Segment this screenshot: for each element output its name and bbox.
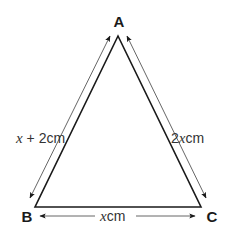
side-label-bc: xcm — [99, 208, 125, 224]
arrow-side-ac — [127, 36, 206, 198]
vertex-label-c: C — [207, 208, 218, 225]
triangle-diagram: A B C x + 2cm 2xcm xcm — [0, 0, 225, 236]
arrow-side-ab — [30, 36, 110, 198]
vertex-label-a: A — [114, 13, 125, 30]
diagram-canvas: A B C x + 2cm 2xcm xcm — [0, 0, 225, 236]
side-label-ac: 2xcm — [171, 130, 204, 146]
side-label-ab: x + 2cm — [15, 130, 65, 146]
vertex-label-b: B — [22, 208, 33, 225]
triangle-abc — [35, 36, 201, 207]
